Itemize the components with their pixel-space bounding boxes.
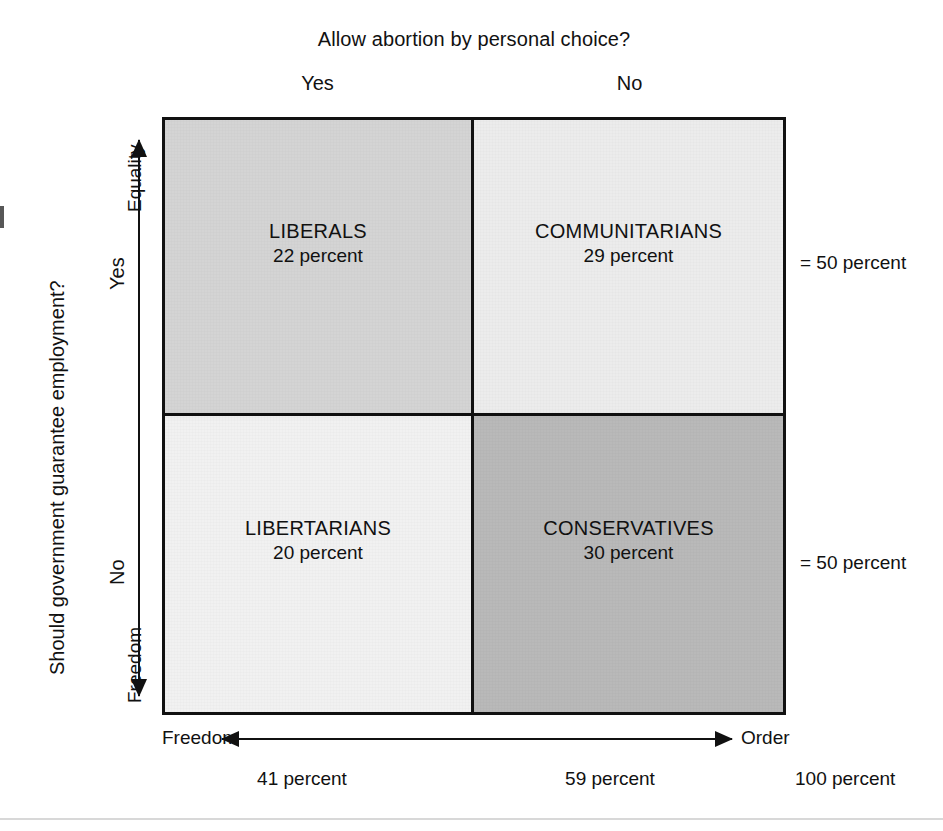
column-total-center: 59 percent <box>530 768 690 790</box>
row-total-bottom: = 50 percent <box>800 552 906 574</box>
row-header-yes: Yes <box>106 257 129 290</box>
vertical-axis-shaft <box>138 140 140 696</box>
quadrant-percent-liberals: 22 percent <box>269 244 367 269</box>
row-header-no: No <box>106 559 129 585</box>
horizontal-axis-left-label: Freedom <box>162 727 238 749</box>
clipped-text-fragment <box>0 206 4 228</box>
column-total-left: 41 percent <box>222 768 382 790</box>
horizontal-axis-shaft <box>222 738 732 740</box>
quadrant-cell-communitarians: COMMUNITARIANS 29 percent <box>474 120 783 416</box>
quadrant-cell-liberals: LIBERALS 22 percent <box>165 120 474 416</box>
column-header-no: No <box>473 72 786 95</box>
quadrant-label-conservatives: CONSERVATIVES <box>543 516 714 541</box>
horizontal-axis-right-label: Order <box>741 727 790 749</box>
quadrant-percent-libertarians: 20 percent <box>245 541 391 566</box>
quadrant-cell-conservatives: CONSERVATIVES 30 percent <box>474 416 783 712</box>
vertical-axis-bottom-label: Freedom <box>124 627 146 703</box>
quadrant-label-communitarians: COMMUNITARIANS <box>535 219 722 244</box>
quadrant-cell-libertarians: LIBERTARIANS 20 percent <box>165 416 474 712</box>
quadrant-matrix: LIBERALS 22 percent COMMUNITARIANS 29 pe… <box>162 117 786 715</box>
quadrant-percent-communitarians: 29 percent <box>535 244 722 269</box>
figure-top-title: Allow abortion by personal choice? <box>162 28 786 51</box>
ideology-quadrant-figure: Allow abortion by personal choice? Yes N… <box>0 0 943 831</box>
column-header-yes: Yes <box>162 72 473 95</box>
quadrant-percent-conservatives: 30 percent <box>543 541 714 566</box>
arrow-head-right-icon <box>715 731 733 747</box>
grand-total: 100 percent <box>795 768 935 790</box>
vertical-axis-top-label: Equality <box>124 144 146 212</box>
row-total-top: = 50 percent <box>800 252 906 274</box>
bottom-divider <box>0 818 943 820</box>
horizontal-axis-arrow-icon <box>222 731 732 747</box>
side-axis-question: Should government guarantee employment? <box>46 280 69 675</box>
vertical-axis-arrow-icon <box>131 140 147 696</box>
quadrant-label-libertarians: LIBERTARIANS <box>245 516 391 541</box>
quadrant-label-liberals: LIBERALS <box>269 219 367 244</box>
